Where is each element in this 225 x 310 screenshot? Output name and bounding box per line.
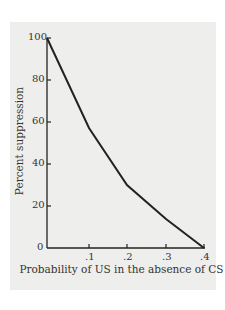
suppression-line xyxy=(47,38,204,248)
x-axis-label: Probability of US in the absence of CS xyxy=(0,263,225,275)
xtick-0.3: .3 xyxy=(162,251,172,262)
ytick-80: 80 xyxy=(32,73,45,84)
ytick-40: 40 xyxy=(32,157,45,168)
ytick-60: 60 xyxy=(32,115,45,126)
xtick-0.2: .2 xyxy=(123,251,133,262)
xtick-0.1: .1 xyxy=(85,251,95,262)
ytick-100: 100 xyxy=(28,31,47,42)
ytick-0: 0 xyxy=(37,241,43,252)
ytick-20: 20 xyxy=(32,199,45,210)
xtick-0.4: .4 xyxy=(200,251,210,262)
y-axis-label: Percent suppression xyxy=(13,86,25,196)
